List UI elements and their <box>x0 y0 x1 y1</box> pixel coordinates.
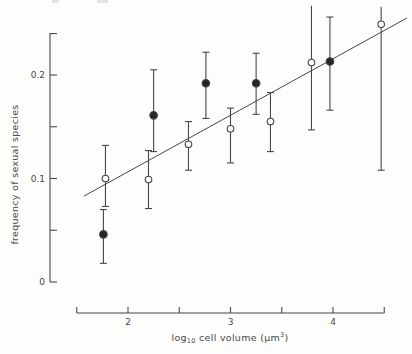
fit-line <box>84 18 407 196</box>
y-tick-label: 0 <box>39 277 45 287</box>
y-tick-label: 0.2 <box>31 70 45 80</box>
open-circle-marker <box>145 176 152 183</box>
scatter-plot-figure: 00.10.2234 frequency of sexual species l… <box>0 0 412 354</box>
x-axis-label-mid: cell volume (µm <box>196 332 280 343</box>
y-axis-label-text: frequency of sexual species <box>9 104 20 244</box>
open-circle-marker <box>308 59 315 66</box>
x-axis: 234 <box>77 307 385 327</box>
filled-circle-marker <box>202 79 210 87</box>
x-tick-label: 3 <box>228 317 234 327</box>
error-bars <box>100 6 385 264</box>
open-circle-marker <box>185 141 192 148</box>
scan-artifact <box>97 0 108 3</box>
filled-circle-marker <box>150 112 158 120</box>
x-axis-label: log10 cell volume (µm3) <box>130 331 330 345</box>
filled-circle-marker <box>100 231 108 239</box>
open-circle-marker <box>378 21 385 28</box>
x-axis-label-subscript: 10 <box>187 337 196 345</box>
scan-artifact <box>52 0 59 3</box>
open-circle-marker <box>227 126 234 133</box>
open-circle-marker <box>267 118 274 125</box>
x-axis-label-suffix: ) <box>285 332 289 343</box>
x-tick-label: 4 <box>330 317 336 327</box>
y-axis: 00.10.2 <box>31 33 57 287</box>
chart-svg: 00.10.2234 <box>0 0 412 354</box>
filled-circle-marker <box>326 58 334 66</box>
x-tick-label: 2 <box>125 317 131 327</box>
y-axis-label: frequency of sexual species <box>9 90 20 260</box>
filled-circle-marker <box>252 79 260 87</box>
open-circle-marker <box>102 175 109 182</box>
y-tick-label: 0.1 <box>31 174 45 184</box>
x-axis-label-prefix: log <box>171 332 186 343</box>
